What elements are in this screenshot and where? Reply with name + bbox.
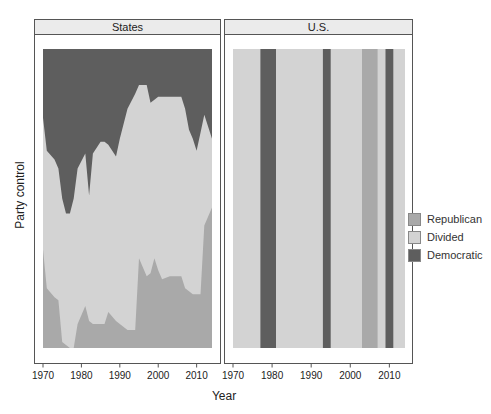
legend-swatch-divided (408, 231, 421, 244)
tick-label: 2000 (147, 370, 170, 381)
panel-title-us: U.S. (308, 21, 329, 33)
tick-label: 1970 (222, 370, 245, 381)
panel-title-states: States (112, 21, 144, 33)
x-axis-states: 19701980199020002010 (32, 364, 208, 381)
legend-swatch-republican (408, 213, 421, 226)
legend: Republican Divided Democratic (408, 210, 483, 264)
tick-label: 2010 (378, 370, 401, 381)
legend-label: Divided (427, 231, 464, 243)
x-axis-label: Year (212, 389, 236, 403)
tick-label: 2010 (186, 370, 209, 381)
legend-swatch-democratic (408, 249, 421, 262)
band-republican (362, 49, 378, 348)
band-democratic (323, 49, 331, 348)
states-stacked-area (43, 49, 212, 348)
band-democratic (260, 49, 276, 348)
y-axis-label: Party control (13, 161, 27, 228)
panel-states: States (35, 20, 221, 364)
us-control-bands (233, 49, 405, 348)
tick-label: 1980 (70, 370, 93, 381)
tick-label: 1990 (300, 370, 323, 381)
tick-label: 1990 (109, 370, 132, 381)
band-divided (233, 49, 405, 348)
panel-us: U.S. (225, 20, 413, 364)
legend-label: Republican (427, 213, 482, 225)
chart-canvas: States U.S. 19701980199020002010 1970198… (0, 0, 491, 414)
tick-label: 1980 (261, 370, 284, 381)
band-democratic (386, 49, 394, 348)
legend-label: Democratic (427, 249, 483, 261)
tick-label: 1970 (32, 370, 55, 381)
legend-item-democratic: Democratic (408, 246, 483, 264)
legend-item-republican: Republican (408, 210, 483, 228)
x-axis-us: 19701980199020002010 (222, 364, 401, 381)
tick-label: 2000 (339, 370, 362, 381)
legend-item-divided: Divided (408, 228, 483, 246)
